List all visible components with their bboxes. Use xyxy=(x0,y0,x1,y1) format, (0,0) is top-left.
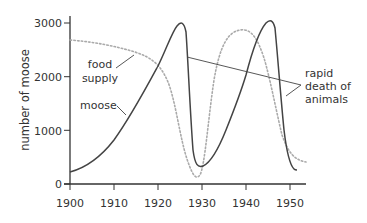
x-tick-label: 1930 xyxy=(188,197,216,210)
x-tick-label: 1910 xyxy=(100,197,128,210)
moose-annotation: moose xyxy=(80,99,126,115)
food-supply-annotation: food supply xyxy=(82,55,134,85)
y-tick-label: 3000 xyxy=(34,17,62,30)
x-tick-label: 1950 xyxy=(276,197,304,210)
x-tick-label: 1920 xyxy=(144,197,172,210)
food-supply-label-line2: supply xyxy=(82,72,119,85)
x-tick-label: 1900 xyxy=(56,197,84,210)
moose-label: moose xyxy=(80,99,117,112)
x-tick-label: 1940 xyxy=(232,197,260,210)
rapid-death-label-line2: death of xyxy=(305,80,352,93)
y-tick-label: 1000 xyxy=(34,125,62,138)
y-tick-label: 0 xyxy=(55,178,62,191)
y-axis-label: number of moose xyxy=(18,49,32,151)
moose-population-chart: 0 1000 2000 3000 1900 1910 1920 1930 194… xyxy=(0,0,367,223)
rapid-death-label-line1: rapid xyxy=(305,67,333,80)
rapid-death-label-line3: animals xyxy=(305,93,348,106)
y-tick-label: 2000 xyxy=(34,71,62,84)
food-supply-label-line1: food xyxy=(88,58,112,71)
